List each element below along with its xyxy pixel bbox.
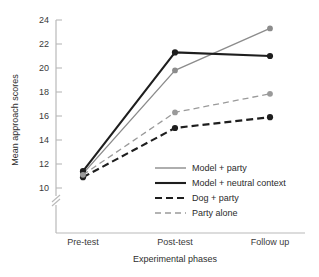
legend-label: Dog + party	[192, 193, 239, 203]
data-point	[80, 172, 86, 178]
data-point	[267, 114, 273, 120]
data-point	[172, 49, 178, 55]
x-axis: Pre-testPost-testFollow up	[56, 233, 305, 247]
y-tick-label: 22	[39, 39, 49, 49]
x-tick-label-pre-test: Pre-test	[67, 237, 99, 247]
legend-label: Model + party	[192, 163, 247, 173]
legend-item: Model + party	[155, 163, 247, 173]
y-axis-title: Mean approach scores	[10, 74, 20, 166]
x-tick-label-post-test: Post-test	[157, 237, 193, 247]
x-axis-title: Experimental phases	[133, 254, 218, 264]
legend-item: Model + neutral context	[155, 178, 286, 188]
legend-item: Party alone	[155, 208, 238, 218]
y-tick-label: 24	[39, 15, 49, 25]
legend-label: Party alone	[192, 208, 238, 218]
y-tick-label: 12	[39, 159, 49, 169]
legend-label: Model + neutral context	[192, 178, 286, 188]
data-point	[267, 26, 273, 32]
approach-scores-line-chart: 1012141618202224 Pre-testPost-testFollow…	[0, 0, 319, 277]
data-point	[267, 53, 273, 59]
data-series-group	[80, 26, 273, 181]
series-model-party	[80, 26, 273, 177]
data-point	[267, 91, 273, 97]
chart-legend: Model + partyModel + neutral contextDog …	[155, 163, 286, 218]
x-tick-label-follow-up: Follow up	[251, 237, 290, 247]
data-point	[172, 110, 178, 116]
y-tick-label: 20	[39, 63, 49, 73]
chart-canvas: 1012141618202224 Pre-testPost-testFollow…	[0, 0, 319, 277]
legend-item: Dog + party	[155, 193, 239, 203]
axis-break-marker	[52, 195, 60, 206]
data-point	[172, 125, 178, 131]
y-tick-label: 14	[39, 135, 49, 145]
y-axis: 1012141618202224	[39, 15, 62, 233]
y-tick-label: 18	[39, 87, 49, 97]
data-point	[172, 68, 178, 74]
y-tick-label: 10	[39, 183, 49, 193]
y-tick-label: 16	[39, 111, 49, 121]
